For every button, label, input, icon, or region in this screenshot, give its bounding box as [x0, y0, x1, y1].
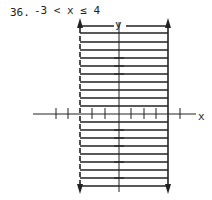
arrow-up-left-icon	[77, 18, 83, 28]
x-axis-label: x	[198, 110, 205, 123]
y-axis-label: y	[115, 18, 122, 31]
inequality-graph	[0, 0, 212, 200]
arrow-up-right-icon	[165, 18, 171, 28]
arrow-down-left-icon	[77, 184, 83, 194]
arrow-down-right-icon	[165, 184, 171, 194]
